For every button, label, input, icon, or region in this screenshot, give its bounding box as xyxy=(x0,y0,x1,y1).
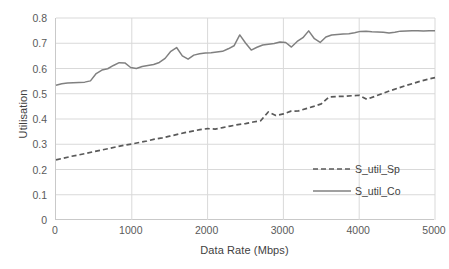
x-tick-label: 3000 xyxy=(252,224,312,236)
legend-label: S_util_Sp xyxy=(355,163,400,175)
y-tick-label: 0.2 xyxy=(1,164,47,176)
x-axis-title: Data Rate (Mbps) xyxy=(55,244,434,256)
legend-line-swatch xyxy=(313,186,351,196)
y-tick-label: 0.5 xyxy=(1,88,47,100)
legend-item[interactable]: S_util_Sp xyxy=(313,158,401,180)
series-line-s_util_co xyxy=(56,31,435,86)
y-tick-label: 0.6 xyxy=(1,63,47,75)
y-tick-label: 0.3 xyxy=(1,138,47,150)
x-tick-label: 4000 xyxy=(328,224,388,236)
x-tick-label: 5000 xyxy=(404,224,449,236)
x-tick-label: 2000 xyxy=(177,224,237,236)
x-tick-label: 0 xyxy=(25,224,85,236)
y-tick-label: 0.1 xyxy=(1,189,47,201)
legend-line-swatch xyxy=(313,164,351,174)
legend-item[interactable]: S_util_Co xyxy=(313,180,401,202)
legend-label: S_util_Co xyxy=(355,185,401,197)
y-tick-label: 0.4 xyxy=(1,113,47,125)
x-tick-label: 1000 xyxy=(101,224,161,236)
series-lines xyxy=(56,31,435,160)
utilisation-line-chart: Utilisation Data Rate (Mbps) 00.10.20.30… xyxy=(0,0,449,269)
y-tick-label: 0.7 xyxy=(1,37,47,49)
y-tick-label: 0.8 xyxy=(1,12,47,24)
chart-legend: S_util_SpS_util_Co xyxy=(313,158,401,202)
